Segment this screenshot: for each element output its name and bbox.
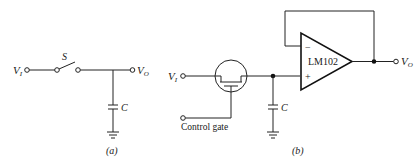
input-voltage-label-a: VI (13, 64, 23, 78)
junction-dot (372, 59, 377, 64)
switch-label: S (62, 51, 67, 62)
switch-s (55, 62, 81, 72)
fet-switch-icon (215, 60, 247, 92)
input-terminal-b (181, 74, 186, 79)
panel-a: VI S VO C (a) (13, 51, 149, 157)
ground-icon (107, 132, 119, 138)
capacitor-label-a: C (121, 102, 128, 113)
panel-caption-b: (b) (292, 145, 304, 157)
input-terminal-a (25, 68, 30, 73)
capacitor-label-b: C (281, 102, 288, 113)
capacitor-icon (108, 105, 118, 109)
output-terminal-a (130, 68, 135, 73)
input-voltage-label-b: VI (168, 70, 178, 84)
opamp-inverting-sign: − (305, 42, 311, 53)
output-voltage-label-b: VO (401, 55, 413, 69)
ground-icon (267, 132, 279, 138)
control-gate-terminal (181, 116, 186, 121)
circuit-diagram: VI S VO C (a) VI (0, 0, 420, 162)
panel-caption-a: (a) (106, 145, 118, 157)
output-terminal-b (394, 59, 399, 64)
output-voltage-label-a: VO (137, 64, 149, 78)
opamp-noninverting-sign: + (305, 71, 311, 82)
opamp-label: LM102 (308, 56, 338, 67)
control-gate-label: Control gate (181, 122, 228, 132)
panel-b: VI Control gate C (168, 11, 413, 157)
capacitor-icon (268, 105, 278, 109)
